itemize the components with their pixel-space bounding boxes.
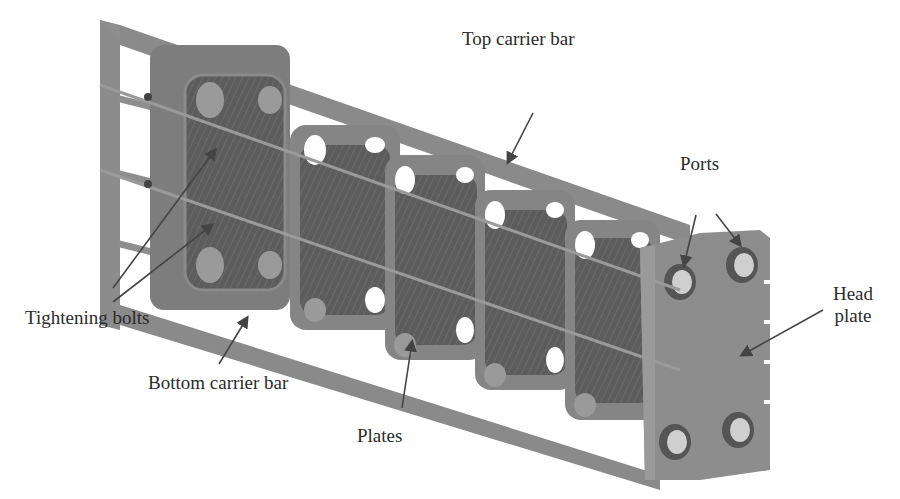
port-top-right bbox=[726, 247, 758, 283]
diagram-illustration bbox=[0, 0, 900, 499]
heat-exchanger-diagram: Top carrier bar Ports Head plate Tighten… bbox=[0, 0, 900, 499]
label-tightening-bolts: Tightening bolts bbox=[25, 307, 149, 329]
label-ports: Ports bbox=[680, 153, 719, 175]
label-top-carrier-bar: Top carrier bar bbox=[462, 28, 575, 50]
plate-3 bbox=[475, 190, 575, 390]
plate-2 bbox=[385, 155, 485, 360]
label-bottom-carrier-bar: Bottom carrier bar bbox=[148, 372, 288, 394]
port-bottom-left bbox=[659, 424, 691, 460]
label-head-plate-line2: plate bbox=[828, 305, 878, 327]
head-plate bbox=[640, 230, 772, 480]
port-bottom-right bbox=[722, 412, 754, 448]
pressure-plate bbox=[150, 45, 290, 310]
port-top-left bbox=[664, 264, 696, 300]
plates-stack bbox=[290, 125, 660, 420]
plate-1 bbox=[290, 125, 400, 330]
label-head-plate-line1: Head bbox=[828, 283, 878, 305]
label-plates: Plates bbox=[357, 425, 402, 447]
